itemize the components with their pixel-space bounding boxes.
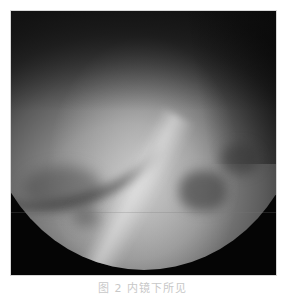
- mucosal-fold-lower-left: [23, 166, 103, 211]
- recess-lower-right: [179, 171, 227, 211]
- figure-caption: 图 2 内镜下所见: [0, 282, 285, 296]
- scan-line-artifact: [11, 212, 276, 213]
- recess-right: [221, 144, 259, 174]
- dark-right-region: [176, 11, 276, 164]
- recess-bottom: [73, 206, 99, 228]
- figure-image-frame: [11, 11, 276, 275]
- endoscopic-image: [11, 11, 276, 270]
